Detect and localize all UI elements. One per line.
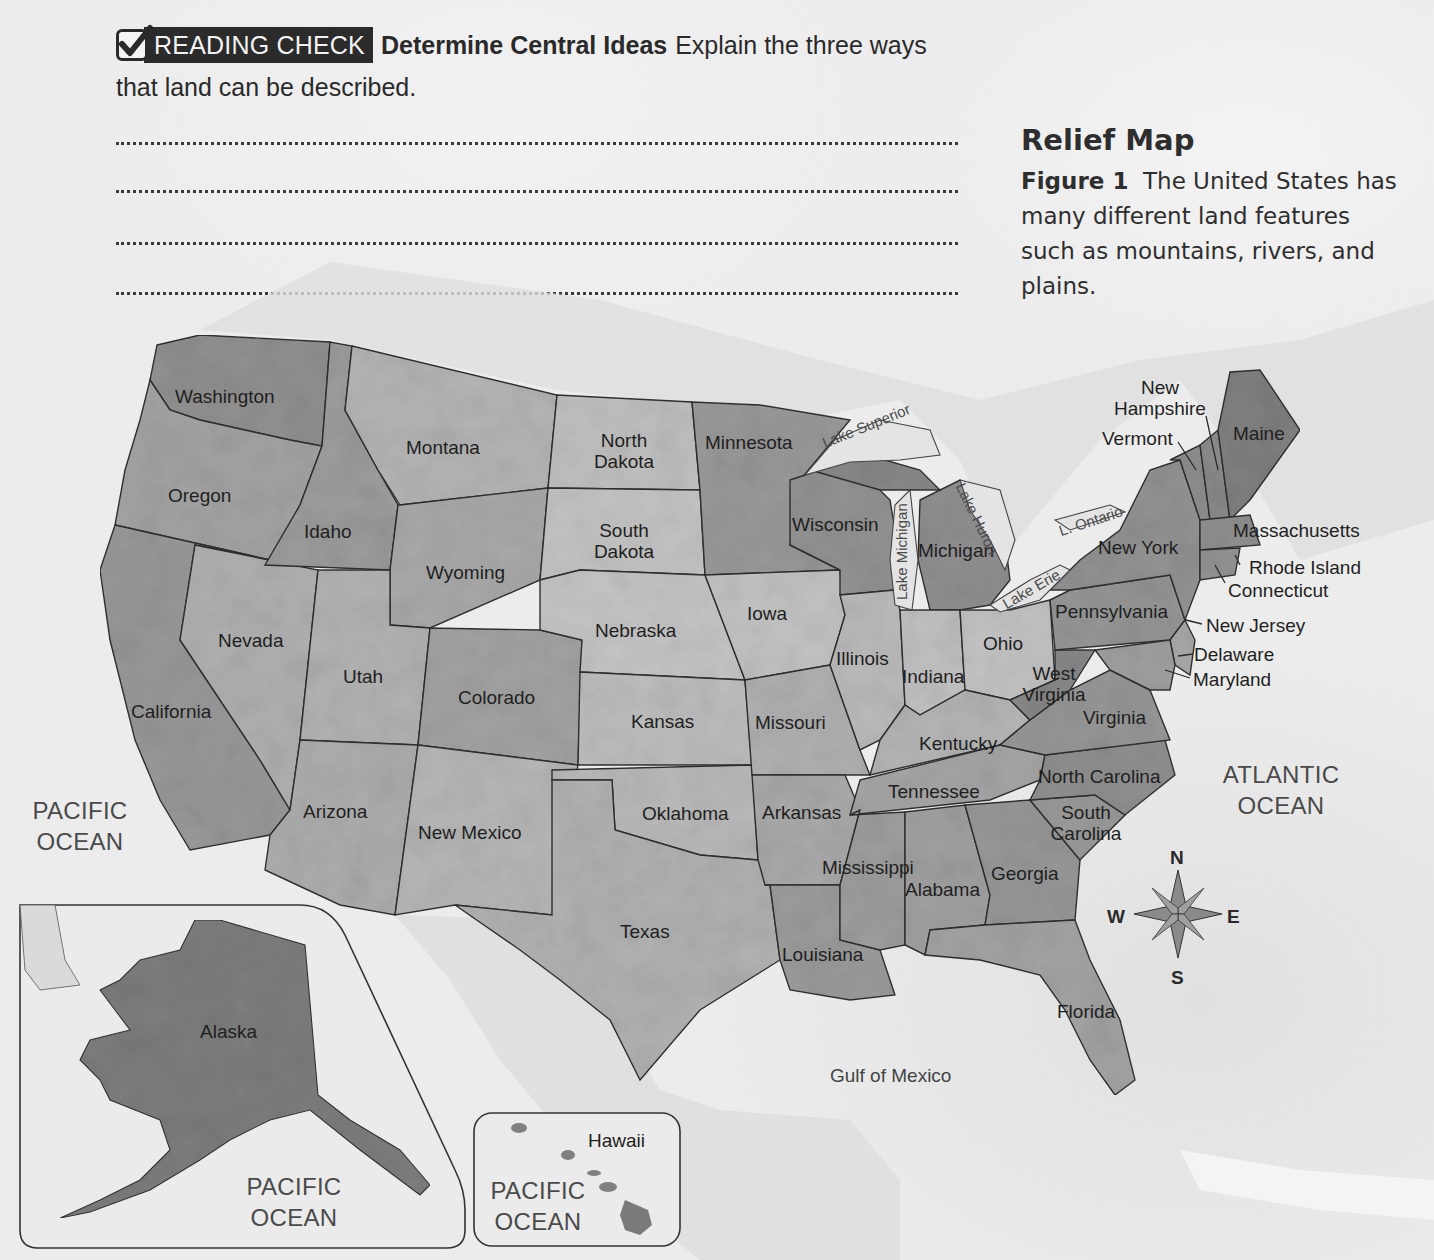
state-label-missouri: Missouri	[755, 712, 826, 733]
state-label-vermont: Vermont	[1102, 428, 1173, 449]
state-label-minnesota: Minnesota	[705, 432, 793, 453]
state-label-north-carolina: North Carolina	[1038, 766, 1161, 787]
state-label-delaware: Delaware	[1194, 644, 1274, 665]
state-label-hawaii: Hawaii	[588, 1130, 645, 1151]
state-label-tennessee: Tennessee	[888, 781, 980, 802]
state-label-iowa: Iowa	[747, 603, 787, 624]
state-label-new-mexico: New Mexico	[418, 822, 521, 843]
checkmark-icon	[116, 29, 148, 61]
state-label-south-carolina: South Carolina	[1042, 802, 1130, 844]
state-label-kentucky: Kentucky	[919, 733, 997, 754]
state-label-texas: Texas	[620, 921, 670, 942]
state-label-illinois: Illinois	[836, 648, 889, 669]
state-label-wyoming: Wyoming	[426, 562, 505, 583]
state-label-utah: Utah	[343, 666, 383, 687]
atlantic-ocean-label: ATLANTIC OCEAN	[1220, 759, 1342, 821]
state-label-nebraska: Nebraska	[595, 620, 676, 641]
state-label-wisconsin: Wisconsin	[792, 514, 879, 535]
pacific-ocean-hawaii-label: PACIFIC OCEAN	[488, 1175, 588, 1237]
state-label-maryland: Maryland	[1193, 669, 1271, 690]
compass-west: W	[1107, 906, 1125, 928]
state-label-idaho: Idaho	[304, 521, 352, 542]
state-label-maine: Maine	[1233, 423, 1285, 444]
state-label-nevada: Nevada	[218, 630, 284, 651]
state-label-massachusetts: Massachusetts	[1233, 520, 1360, 541]
state-label-mississippi: Mississippi	[822, 857, 914, 878]
state-label-colorado: Colorado	[458, 687, 535, 708]
state-label-florida: Florida	[1057, 1001, 1115, 1022]
compass-south: S	[1171, 967, 1184, 989]
state-label-oregon: Oregon	[168, 485, 231, 506]
state-label-new-jersey: New Jersey	[1206, 615, 1305, 636]
state-label-oklahoma: Oklahoma	[642, 803, 729, 824]
state-label-new-hampshire: New Hampshire	[1108, 377, 1212, 419]
compass-east: E	[1227, 906, 1240, 928]
state-label-kansas: Kansas	[631, 711, 694, 732]
pacific-ocean-alaska-label: PACIFIC OCEAN	[244, 1171, 344, 1233]
state-label-west-virginia: West Virginia	[1020, 663, 1088, 705]
state-label-alaska: Alaska	[200, 1021, 257, 1042]
state-label-connecticut: Connecticut	[1228, 580, 1328, 601]
state-label-montana: Montana	[406, 437, 480, 458]
state-label-south-dakota: South Dakota	[586, 520, 662, 562]
state-label-georgia: Georgia	[991, 863, 1059, 884]
gulf-of-mexico-label: Gulf of Mexico	[830, 1065, 951, 1087]
pacific-ocean-label: PACIFIC OCEAN	[30, 795, 130, 857]
state-label-virginia: Virginia	[1083, 707, 1146, 728]
state-label-california: California	[131, 701, 211, 722]
compass-north: N	[1170, 847, 1184, 869]
state-label-north-dakota: North Dakota	[586, 430, 662, 472]
state-label-louisiana: Louisiana	[782, 944, 863, 965]
state-label-arizona: Arizona	[303, 801, 367, 822]
state-label-alabama: Alabama	[905, 879, 980, 900]
state-label-indiana: Indiana	[902, 666, 964, 687]
lake-label-michigan: Lake Michigan	[893, 503, 910, 600]
alaska-inset	[20, 905, 465, 1248]
compass-rose	[1134, 870, 1222, 958]
state-label-new-york: New York	[1098, 537, 1178, 558]
state-label-pennsylvania: Pennsylvania	[1055, 601, 1168, 622]
state-label-washington: Washington	[175, 386, 275, 407]
state-label-arkansas: Arkansas	[762, 802, 841, 823]
state-label-rhode-island: Rhode Island	[1249, 557, 1361, 578]
state-label-ohio: Ohio	[983, 633, 1023, 654]
